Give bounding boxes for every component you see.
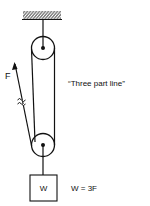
force-arrow-icon: [12, 62, 18, 70]
rope: [15, 48, 55, 146]
force-label: F: [5, 71, 11, 81]
ceiling-support: [22, 11, 62, 20]
three-part-line-caption: “Three part line”: [68, 79, 125, 88]
axle-icon: [41, 46, 45, 50]
pulley-diagram: F “Three part line” W W = 3F: [0, 0, 150, 206]
equation-label: W = 3F: [71, 184, 97, 193]
break-squiggle-icon: [18, 99, 26, 106]
weight-label: W: [40, 184, 48, 193]
